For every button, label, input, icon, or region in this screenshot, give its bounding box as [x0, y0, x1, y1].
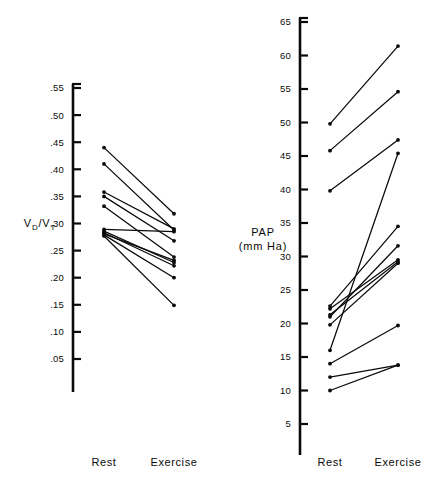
y-tick-label: .15	[50, 299, 64, 310]
y-axis-right: 6560555045403530252015105	[280, 16, 308, 455]
data-point-exercise	[396, 44, 400, 48]
y-tick-label: .35	[50, 191, 64, 202]
series-segment	[330, 46, 398, 124]
series-pair	[328, 363, 400, 392]
y-tick-label: .25	[50, 245, 64, 256]
data-point-exercise	[172, 258, 176, 262]
chart-svg-right: 6560555045403530252015105 PAP (mm Ha) Re…	[210, 0, 423, 490]
data-point-rest	[328, 375, 332, 379]
y-axis-title-right-line1: PAP	[251, 226, 275, 238]
series-pair	[328, 260, 400, 317]
y-tick-label: 60	[280, 50, 291, 61]
data-point-rest	[328, 122, 332, 126]
series-pair	[328, 363, 400, 379]
y-tick-label: 40	[280, 184, 291, 195]
figure-root: .55.50.45.40.35.30.25.20.15.10.05 VD/VT …	[0, 0, 423, 490]
data-point-rest	[328, 348, 332, 352]
data-point-rest	[328, 362, 332, 366]
data-point-exercise	[396, 244, 400, 248]
y-tick-label: 10	[280, 385, 291, 396]
series-pair	[328, 138, 400, 193]
y-tick-label: 65	[280, 16, 291, 27]
data-point-exercise	[396, 324, 400, 328]
data-point-exercise	[396, 363, 400, 367]
data-point-exercise	[172, 264, 176, 268]
chart-panel-vd-vt: .55.50.45.40.35.30.25.20.15.10.05 VD/VT …	[0, 0, 213, 490]
data-point-exercise	[172, 212, 176, 216]
chart-panel-pap: 6560555045403530252015105 PAP (mm Ha) Re…	[210, 0, 423, 490]
x-category-rest-left: Rest	[91, 456, 116, 468]
data-point-exercise	[172, 255, 176, 259]
y-tick-label: .50	[50, 110, 64, 121]
data-point-rest	[328, 307, 332, 311]
series-group-right	[328, 44, 400, 392]
series-pair	[328, 324, 400, 366]
y-tick-label: 55	[280, 83, 291, 94]
x-category-exercise-left: Exercise	[151, 456, 198, 468]
series-segment	[330, 365, 398, 390]
x-category-rest-right: Rest	[317, 456, 342, 468]
y-tick-label: .40	[50, 164, 64, 175]
y-tick-label: .20	[50, 272, 64, 283]
data-point-exercise	[396, 224, 400, 228]
data-point-rest	[328, 313, 332, 317]
data-point-exercise	[396, 151, 400, 155]
series-segment	[330, 262, 398, 315]
data-point-exercise	[396, 90, 400, 94]
y-tick-label: .05	[50, 353, 64, 364]
data-point-exercise	[396, 138, 400, 142]
series-pair	[102, 146, 176, 216]
data-point-rest	[102, 146, 106, 150]
y-tick-label: .45	[50, 137, 64, 148]
y-tick-label: .55	[50, 82, 64, 93]
x-category-exercise-right: Exercise	[375, 456, 422, 468]
y-tick-label: 5	[286, 418, 291, 429]
series-pair	[102, 234, 176, 307]
y-axis-left: .55.50.45.40.35.30.25.20.15.10.05	[50, 82, 81, 392]
y-tick-label: 50	[280, 117, 291, 128]
y-tick-label: 20	[280, 318, 291, 329]
data-point-rest	[328, 389, 332, 393]
y-tick-label: 30	[280, 251, 291, 262]
chart-svg-left: .55.50.45.40.35.30.25.20.15.10.05 VD/VT …	[0, 0, 213, 490]
series-pair	[102, 228, 176, 234]
data-point-rest	[102, 190, 106, 194]
data-point-exercise	[396, 261, 400, 265]
series-pair	[328, 90, 400, 153]
series-segment	[330, 260, 398, 309]
series-segment	[330, 365, 398, 377]
series-pair	[328, 151, 400, 352]
series-segment	[330, 326, 398, 364]
series-segment	[104, 148, 174, 214]
data-point-rest	[328, 189, 332, 193]
y-tick-label: 25	[280, 284, 291, 295]
data-point-rest	[328, 149, 332, 153]
data-point-exercise	[172, 230, 176, 234]
y-tick-label: 45	[280, 150, 291, 161]
series-segment	[330, 92, 398, 151]
data-point-rest	[102, 162, 106, 166]
data-point-exercise	[172, 239, 176, 243]
data-point-rest	[102, 234, 106, 238]
series-pair	[328, 261, 400, 326]
data-point-rest	[102, 195, 106, 199]
series-pair	[102, 231, 176, 268]
data-point-exercise	[172, 276, 176, 280]
y-tick-label: .10	[50, 326, 64, 337]
y-tick-label: 15	[280, 351, 291, 362]
data-point-rest	[328, 323, 332, 327]
y-axis-title-right-line2: (mm Ha)	[239, 240, 287, 252]
series-group-left	[102, 146, 176, 308]
data-point-exercise	[172, 303, 176, 307]
data-point-rest	[102, 204, 106, 208]
series-pair	[328, 44, 400, 126]
y-tick-label: 35	[280, 217, 291, 228]
